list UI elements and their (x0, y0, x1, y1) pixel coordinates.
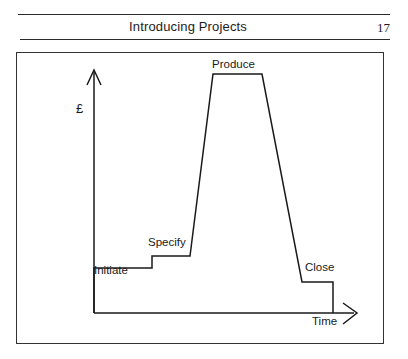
x-axis-label: Time (312, 315, 337, 327)
page-number: 17 (377, 20, 390, 36)
stage-label-specify: Specify (148, 236, 186, 248)
header-rule-bottom (20, 39, 390, 40)
project-lifecycle-chart (16, 52, 384, 344)
stage-label-close: Close (305, 261, 334, 273)
expenditure-curve (94, 74, 333, 313)
page-title: Introducing Projects (18, 19, 358, 34)
document-page: Introducing Projects 17 £ Initiate Speci… (0, 0, 408, 359)
stage-label-produce: Produce (212, 58, 255, 70)
page-header: Introducing Projects 17 (18, 14, 390, 40)
stage-label-initiate: Initiate (94, 264, 128, 276)
y-axis-label: £ (76, 101, 83, 116)
header-rule-top (18, 14, 390, 15)
